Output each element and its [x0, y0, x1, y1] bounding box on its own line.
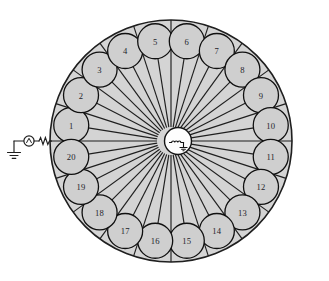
load-node-label: 10	[266, 121, 275, 131]
load-node-label: 5	[153, 37, 158, 47]
load-node-15[interactable]: 15	[169, 223, 204, 258]
load-node-label: 13	[238, 208, 247, 218]
load-node-label: 9	[259, 91, 264, 101]
load-node-label: 15	[182, 236, 191, 246]
load-node-label: 6	[185, 37, 190, 47]
load-node-label: 1	[69, 121, 74, 131]
load-node-20[interactable]: 20	[54, 139, 89, 174]
load-node-label: 11	[266, 152, 275, 162]
load-node-label: 12	[256, 182, 265, 192]
load-node-label: 3	[97, 65, 102, 75]
load-node-5[interactable]: 5	[138, 24, 173, 59]
ac-voltage-source-symbol	[24, 136, 34, 146]
load-node-label: 20	[67, 152, 76, 162]
load-node-label: 17	[121, 226, 130, 236]
ground-symbol	[8, 141, 21, 158]
central-source-hub[interactable]	[165, 128, 192, 155]
load-node-label: 7	[215, 46, 220, 56]
load-node-label: 16	[151, 236, 160, 246]
radial-network-diagram: 1234567891011121314151617181920	[0, 0, 329, 281]
load-node-10[interactable]: 10	[253, 108, 288, 143]
load-node-label: 14	[212, 226, 221, 236]
cropped-header-text	[6, 0, 176, 9]
load-node-label: 19	[77, 182, 86, 192]
circuit-figure: 1234567891011121314151617181920	[0, 0, 329, 281]
supply-branch[interactable]	[8, 136, 52, 158]
load-node-label: 18	[95, 208, 104, 218]
load-node-label: 2	[79, 91, 84, 101]
load-node-label: 8	[240, 65, 245, 75]
load-node-label: 4	[123, 46, 128, 56]
